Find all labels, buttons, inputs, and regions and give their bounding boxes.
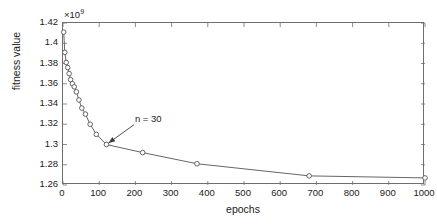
y-axis-tick-label: 1.38 [40,58,59,68]
y-axis-tick-label: 1.3 [45,139,58,149]
x-axis-tick-label: 600 [271,188,287,198]
x-axis-tick-label: 300 [163,188,179,198]
x-axis-tick-label: 700 [307,188,323,198]
y-axis-tick-label: 1.36 [40,78,59,88]
annotation-arrow [109,125,134,143]
y-axis-tick-label: 1.4 [45,38,58,48]
y-axis-tick-label: 1.34 [40,98,59,108]
y-axis-tick-label: 1.28 [40,159,59,169]
y-axis-tick-label: 1.42 [40,17,59,27]
figure-canvas: ×109 fitness value 1.261.281.31.321.341.… [0,0,437,224]
x-axis-tick-label: 200 [126,188,142,198]
y-axis-exponent-mantissa: ×10 [64,9,80,20]
fitness-curve-line [64,32,425,178]
plot-svg [63,23,425,185]
x-axis-tick-label: 1000 [413,188,434,198]
y-axis-tick-labels: 1.261.281.31.321.341.361.381.41.42 [0,22,58,184]
x-axis-tick-label: 100 [90,188,106,198]
x-axis-tick-label: 900 [380,188,396,198]
annotation-label: n = 30 [135,113,162,124]
y-axis-tick-label: 1.32 [40,119,59,129]
x-axis-tick-labels: 01002003004005006007008009001000 [62,188,424,202]
y-axis-tick-label: 1.26 [40,179,59,189]
y-axis-ticks [63,23,425,185]
x-axis-ticks [63,23,425,185]
fitness-curve-markers [61,30,427,180]
x-axis-title: epochs [62,203,424,215]
plot-area [62,22,424,184]
x-axis-tick-label: 800 [344,188,360,198]
x-axis-tick-label: 500 [235,188,251,198]
x-axis-tick-label: 400 [199,188,215,198]
x-axis-tick-label: 0 [59,188,64,198]
y-axis-exponent-label: ×109 [64,8,84,20]
y-axis-exponent-power: 9 [80,8,84,15]
